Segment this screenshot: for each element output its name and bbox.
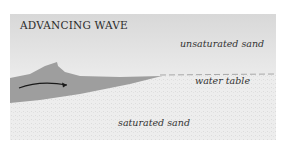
label-saturated-sand: saturated sand xyxy=(118,117,190,128)
label-unsaturated-sand: unsaturated sand xyxy=(180,38,264,49)
label-water-table: water table xyxy=(195,75,250,86)
diagram-title: ADVANCING WAVE xyxy=(20,19,128,31)
advancing-wave-diagram: ADVANCING WAVE unsaturated sand water ta… xyxy=(10,14,276,140)
